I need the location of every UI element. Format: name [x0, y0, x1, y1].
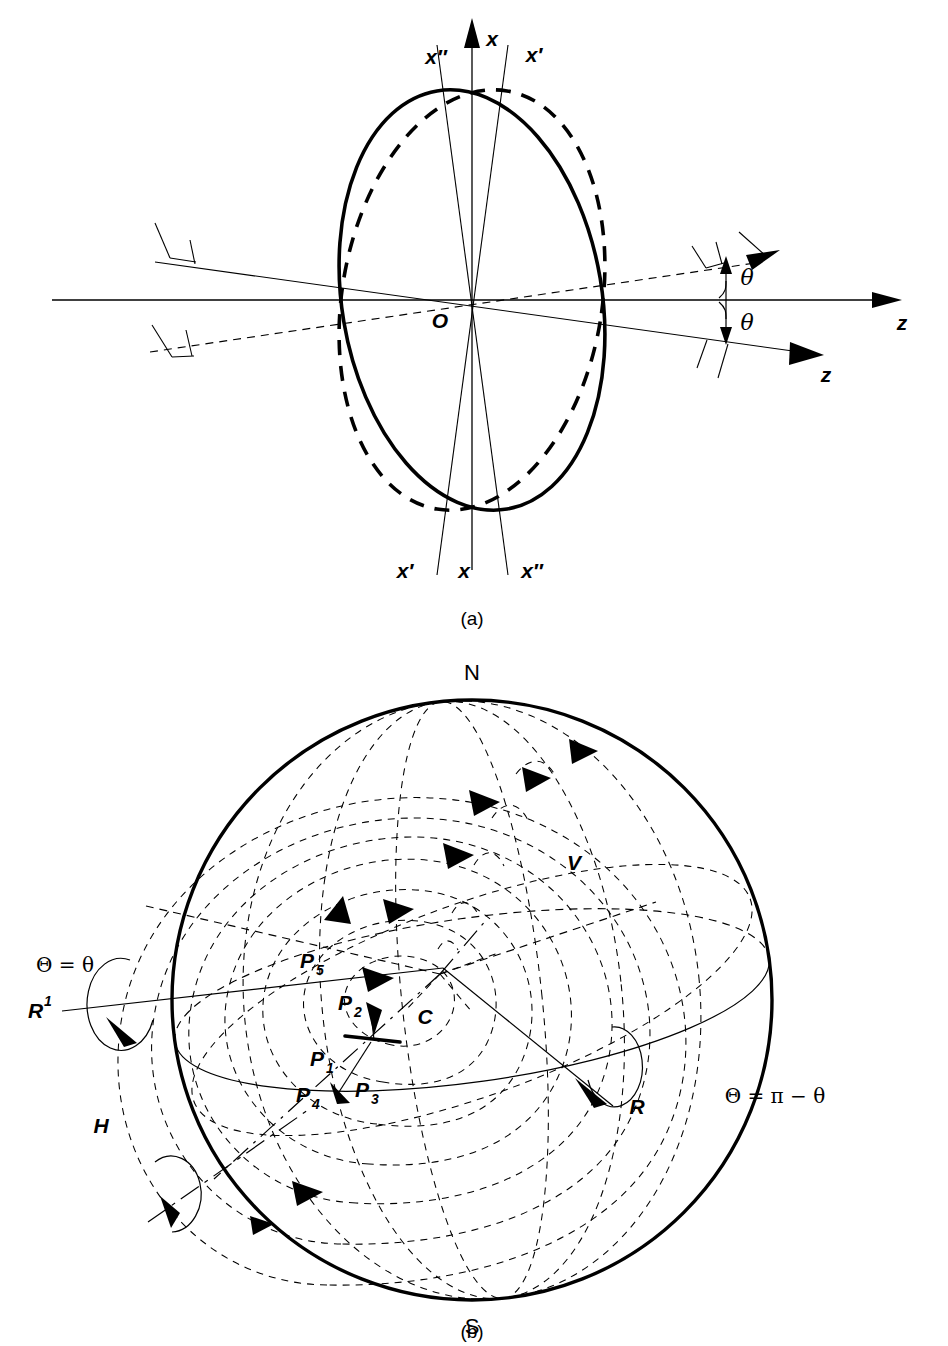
h-rotation-arc [155, 1156, 201, 1232]
label-origin-o: O [432, 309, 448, 332]
flow-contour-6 [152, 818, 650, 1244]
label-x-top: x [485, 27, 499, 50]
label-x-prime-bottom: x′ [396, 559, 415, 582]
sphere-tilted-axis [146, 902, 656, 1179]
label-point-p3-base: P [355, 1078, 370, 1101]
label-rotation-r1: R 1 [28, 993, 52, 1022]
label-z-tilted: z [820, 363, 832, 386]
label-point-c: C [417, 1005, 433, 1028]
z-tilted-arrowhead [789, 342, 824, 365]
panel-a-z-axis [52, 292, 902, 308]
label-point-p2: P 2 [338, 991, 362, 1020]
flow-arrow-6 [324, 896, 351, 924]
label-theta-right: Θ = π − θ [725, 1084, 826, 1108]
label-point-p5: P 5 [300, 949, 324, 978]
label-rotation-r1-sup: 1 [44, 993, 52, 1009]
vector-p3-arrow [330, 1082, 350, 1104]
label-velocity-v: V [567, 851, 583, 874]
r-leader-line [443, 968, 613, 1106]
label-z-horizontal: z [896, 311, 908, 334]
rotation-r1-indicator [62, 958, 443, 1050]
flow-arrow-4 [443, 843, 474, 869]
label-point-p2-sub: 2 [353, 1004, 362, 1020]
flow-arrow-2 [522, 767, 551, 792]
label-theta-left: Θ = θ [36, 953, 94, 977]
flow-arrow-9 [250, 1216, 274, 1235]
label-point-p3: P 3 [355, 1078, 379, 1107]
vector-p2-arrow [366, 1002, 382, 1035]
label-theta-upper: θ [740, 265, 753, 290]
sphere-equator [164, 877, 781, 1123]
panel-a-caption: (a) [460, 608, 483, 629]
x-axis-arrowhead [464, 18, 480, 48]
label-point-p3-sub: 3 [371, 1091, 379, 1107]
figure-svg: x″ x x′ x′ x x″ O z z θ θ (a) [0, 0, 948, 1346]
panel-a-x-axis [464, 18, 480, 570]
label-rotation-r1-base: R [28, 999, 44, 1022]
label-x-bottom: x [457, 559, 471, 582]
equator-back [164, 877, 770, 1042]
r1-leader-line [62, 968, 443, 1011]
flow-arrow-8 [292, 1181, 323, 1206]
label-point-p1: P 1 [310, 1047, 334, 1076]
label-point-p4-sub: 4 [311, 1096, 320, 1112]
label-x-prime-top: x′ [525, 43, 544, 66]
flow-arrowheads [250, 739, 598, 1235]
panel-a-theta-lower-indicator [719, 300, 732, 345]
label-axis-h: H [93, 1114, 109, 1137]
equator-front [175, 958, 781, 1123]
r-arrowhead [575, 1078, 607, 1108]
panel-a: x″ x x′ x′ x x″ O z z θ θ (a) [52, 18, 908, 629]
label-pole-north: N [464, 660, 480, 685]
label-point-p1-base: P [310, 1047, 325, 1070]
label-point-p1-sub: 1 [326, 1060, 334, 1076]
label-point-p5-sub: 5 [316, 962, 324, 978]
label-theta-lower: θ [740, 310, 753, 335]
center-hub-lines [406, 953, 498, 1012]
panel-b-caption: (b) [460, 1321, 483, 1342]
rotation-r-indicator [443, 968, 642, 1108]
flow-arrow-3 [469, 790, 500, 816]
panel-a-theta-upper-indicator [719, 256, 732, 300]
label-point-p5-base: P [300, 949, 315, 972]
flow-arrow-7 [362, 967, 394, 992]
z-axis-arrowhead [872, 292, 902, 308]
label-point-p2-base: P [338, 991, 353, 1014]
label-point-p4-base: P [296, 1083, 311, 1106]
panel-b: N S C V R R 1 H Θ = θ Θ = π − θ P 1 P 2 … [28, 660, 825, 1339]
label-point-p4: P 4 [296, 1083, 320, 1112]
sphere-meridians [214, 678, 730, 1322]
flow-arrow-1 [569, 739, 598, 764]
label-x-double-prime-top: x″ [424, 45, 448, 68]
label-x-double-prime-bottom: x″ [520, 559, 544, 582]
label-rotation-r: R [629, 1095, 645, 1118]
figure-root: x″ x x′ x′ x x″ O z z θ θ (a) [0, 0, 948, 1346]
